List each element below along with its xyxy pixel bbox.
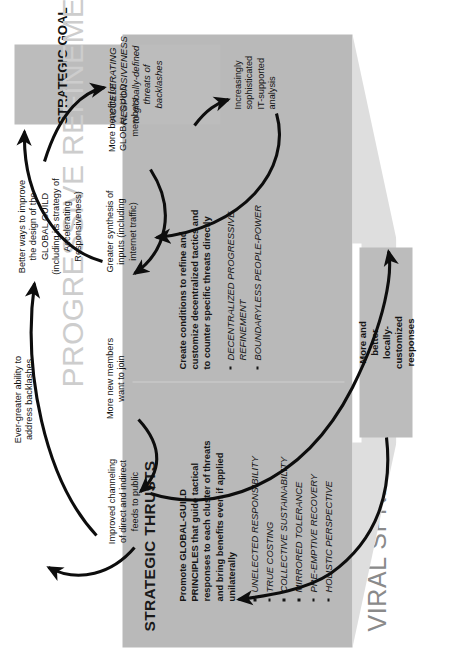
arrow-benefits-to-members — [134, 169, 165, 273]
diagram-canvas: VIRAL SPREAD STRATEGIC THRUSTS Promote G… — [0, 0, 453, 669]
arrow-layer — [0, 0, 453, 669]
arrow-improved-to-backlashes — [48, 547, 134, 575]
arrow-better-to-benefits — [44, 87, 104, 161]
arrow-goal-to-analysis — [194, 99, 228, 125]
arrow-responses-to-goal — [238, 437, 387, 599]
arrow-synthesis-to-goal — [24, 131, 102, 261]
arrow-backlashes-to-responses — [150, 251, 389, 499]
arrow-analysis-to-synthesis — [156, 113, 279, 237]
arrow-goal-to-better-ways — [31, 283, 96, 535]
arrow-members-to-improved — [138, 419, 156, 491]
